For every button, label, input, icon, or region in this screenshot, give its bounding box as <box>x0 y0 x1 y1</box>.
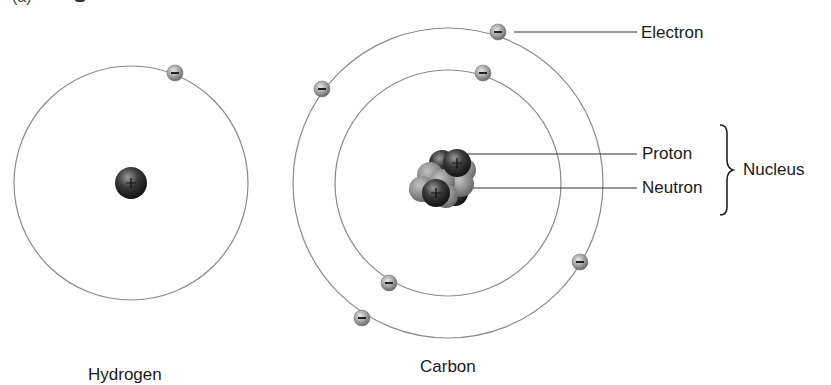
hydrogen-label: Hydrogen <box>88 366 162 383</box>
carbon-nucleus <box>409 149 476 208</box>
atom-diagram: (a) <box>0 0 831 385</box>
proton-icon <box>422 179 450 207</box>
electron-icon <box>475 65 491 81</box>
svg-text:(a): (a) <box>12 0 32 5</box>
proton-icon <box>443 149 471 177</box>
electron-icon <box>381 275 397 291</box>
electron-icon <box>490 24 506 40</box>
electron-label: Electron <box>641 24 703 41</box>
carbon-atom <box>293 24 603 338</box>
electron-icon <box>314 81 330 97</box>
hydrogen-nucleus-proton-icon <box>115 167 147 199</box>
electron-icon <box>167 65 183 81</box>
nucleus-brace <box>720 125 733 215</box>
hydrogen-atom <box>14 65 248 300</box>
nucleus-label: Nucleus <box>743 161 804 178</box>
electron-icon <box>572 254 588 270</box>
electron-icon <box>354 310 370 326</box>
neutron-label: Neutron <box>642 179 702 196</box>
partial-panel-label: (a) <box>12 0 85 5</box>
carbon-label: Carbon <box>420 358 476 375</box>
proton-label: Proton <box>642 145 692 162</box>
